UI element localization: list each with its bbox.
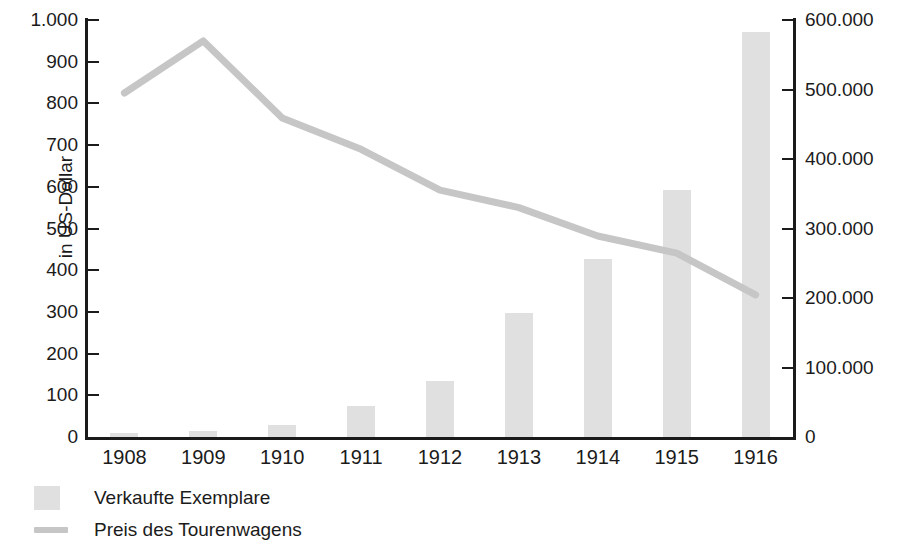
y-axis-left-labels: 01002003004005006007008009001.000 <box>0 0 78 460</box>
y-axis-right-tick-label: 0 <box>805 427 816 446</box>
chart-legend: Verkaufte Exemplare Preis des Tourenwage… <box>22 482 522 546</box>
x-axis-tick-label: 1915 <box>632 446 722 469</box>
x-axis-tick-label: 1914 <box>553 446 643 469</box>
chart-container: in US-Dollar 010020030040050060070080090… <box>0 0 899 548</box>
legend-label-preis-des-tourenwagens: Preis des Tourenwagens <box>94 519 302 541</box>
x-axis-tick-label: 1912 <box>395 446 485 469</box>
legend-item-preis-des-tourenwagens: Preis des Tourenwagens <box>22 514 522 546</box>
x-axis-tick-label: 1908 <box>79 446 169 469</box>
line-series-preis-des-tourenwagens <box>85 20 795 437</box>
y-axis-left-tick-label: 1.000 <box>30 10 78 29</box>
x-axis-tick-label: 1916 <box>711 446 801 469</box>
legend-swatch-line-icon <box>22 527 94 533</box>
y-axis-left-tick-label: 600 <box>46 177 78 196</box>
x-axis-tick-label: 1913 <box>474 446 564 469</box>
y-axis-right-tick-label: 600.000 <box>805 10 874 29</box>
y-axis-right-tick-label: 500.000 <box>805 80 874 99</box>
legend-item-verkaufte-exemplare: Verkaufte Exemplare <box>22 482 522 514</box>
y-axis-right-tick-label: 300.000 <box>805 219 874 238</box>
y-axis-right-labels: 0100.000200.000300.000400.000500.000600.… <box>805 0 899 460</box>
x-axis-tick-label: 1911 <box>316 446 406 469</box>
x-axis-tick-label: 1910 <box>237 446 327 469</box>
y-axis-left-tick-label: 0 <box>67 427 78 446</box>
y-axis-left-tick-label: 900 <box>46 52 78 71</box>
y-axis-left-tick-label: 800 <box>46 93 78 112</box>
plot-area <box>85 20 795 437</box>
y-axis-right-tick-label: 100.000 <box>805 358 874 377</box>
y-axis-left-tick-label: 400 <box>46 260 78 279</box>
y-axis-right-tick-label: 400.000 <box>805 149 874 168</box>
y-axis-left-tick-label: 200 <box>46 344 78 363</box>
x-axis-line <box>85 437 796 440</box>
y-axis-right-tick-label: 200.000 <box>805 288 874 307</box>
y-axis-left-tick-label: 500 <box>46 219 78 238</box>
y-axis-left-tick-label: 300 <box>46 302 78 321</box>
x-axis-tick-label: 1909 <box>158 446 248 469</box>
legend-swatch-bar-icon <box>22 486 94 510</box>
y-axis-left-tick-label: 700 <box>46 135 78 154</box>
y-axis-left-tick-label: 100 <box>46 385 78 404</box>
legend-label-verkaufte-exemplare: Verkaufte Exemplare <box>94 487 270 509</box>
